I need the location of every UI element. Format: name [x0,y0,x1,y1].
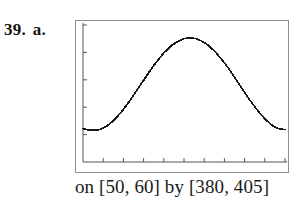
problem-part-letter: a. [33,20,46,39]
curve-path [83,38,285,130]
viewing-window-caption: on [50, 60] by [380, 405] [75,176,301,198]
exercise-figure: 39.a. on [50, 60] by [380, 405] [0,0,307,211]
plot-axes [83,23,287,162]
plot-curve [83,38,285,130]
calculator-screen [75,20,289,173]
curve-plot [76,21,288,172]
problem-label: 39.a. [4,20,46,40]
problem-number: 39. [4,20,26,39]
